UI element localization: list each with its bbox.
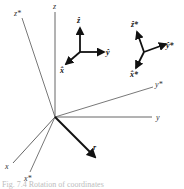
x-hat-vector (66, 52, 80, 64)
coordinate-rotation-figure: z z* y y* x x* r ẑ ŷ x̂ ẑ* ŷ* x̂* Fig. 7… (0, 0, 184, 189)
x-hat-label: x̂ (59, 66, 64, 75)
diagram-canvas: z z* y y* x x* r ẑ ŷ x̂ ẑ* ŷ* x̂* (0, 0, 184, 189)
x-axis (13, 117, 55, 163)
y-star-axis-label: y* (154, 80, 163, 89)
z-hat-star-vector (137, 32, 144, 52)
y-axis-label: y (155, 113, 160, 122)
position-vector-label: r (93, 143, 97, 152)
unit-vector-triad (66, 28, 104, 64)
x-axis-label: x (4, 162, 9, 171)
y-hat-star-label: ŷ* (165, 41, 175, 50)
z-star-axis (22, 18, 55, 117)
figure-caption: Fig. 7.4 Rotation of coordinates (2, 180, 184, 189)
z-hat-star-label: ẑ* (130, 20, 139, 29)
position-vector-r (55, 117, 95, 157)
y-hat-label: ŷ (105, 48, 110, 57)
z-axis-label: z (52, 2, 57, 11)
z-star-axis-label: z* (13, 9, 21, 18)
rotated-unit-vector-triad (136, 32, 166, 68)
x-hat-star-label: x̂* (129, 70, 139, 79)
y-star-axis (55, 87, 153, 117)
z-hat-label: ẑ (76, 16, 81, 25)
x-hat-star-vector (136, 52, 144, 68)
y-hat-star-vector (144, 44, 166, 52)
x-star-axis (30, 117, 55, 172)
